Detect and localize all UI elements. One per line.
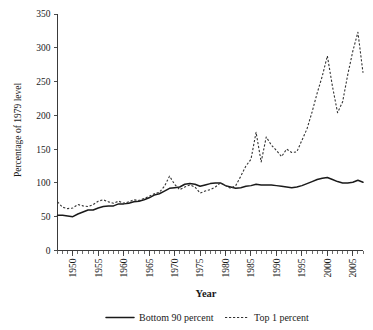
x-tick-label: 1980: [221, 258, 231, 277]
y-tick-label: 250: [36, 77, 51, 87]
y-tick-label: 0: [46, 246, 51, 256]
x-axis-minor-ticks: [58, 251, 364, 254]
legend-label-top-1-percent: Top 1 percent: [254, 312, 309, 323]
x-tick-label: 2005: [348, 258, 358, 277]
x-tick-label: 1970: [170, 258, 180, 277]
x-tick-label: 1990: [272, 258, 282, 277]
x-tick-label: 1985: [246, 258, 256, 277]
x-tick-label: 1975: [195, 258, 205, 277]
x-tick-label: 1960: [119, 258, 129, 277]
y-tick-label: 150: [36, 145, 51, 155]
y-axis-title: Percentage of 1979 level: [13, 83, 23, 178]
legend-label-bottom-90-percent: Bottom 90 percent: [139, 312, 214, 323]
chart-figure: Percentage of 1979 level 050100150200250…: [0, 0, 373, 330]
x-axis-title: Year: [196, 288, 217, 299]
x-tick-label: 1965: [145, 258, 155, 277]
x-tick-label: 2000: [323, 258, 333, 277]
y-tick-label: 50: [41, 212, 51, 222]
y-tick-label: 300: [36, 43, 51, 53]
series-line-top-1-percent: [58, 32, 364, 208]
chart-legend: Bottom 90 percent Top 1 percent: [106, 312, 309, 323]
series-line-bottom-90-percent: [58, 178, 364, 217]
line-chart: Percentage of 1979 level 050100150200250…: [0, 0, 373, 330]
x-tick-label: 1950: [68, 258, 78, 277]
y-tick-label: 350: [36, 9, 51, 19]
y-axis-ticks: 050100150200250300350: [36, 9, 57, 256]
y-tick-label: 100: [36, 178, 51, 188]
y-tick-label: 200: [36, 111, 51, 121]
x-tick-label: 1995: [297, 258, 307, 277]
x-axis-ticks: 1950195519601965197019751980198519901995…: [68, 251, 358, 278]
x-tick-label: 1955: [94, 258, 104, 277]
